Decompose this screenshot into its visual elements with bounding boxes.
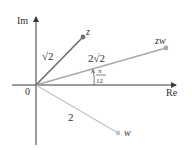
modulus-w-label: 2 [68, 111, 74, 123]
point-z [81, 35, 86, 40]
point-z-label: z [85, 26, 90, 37]
real-axis-label: Re [166, 87, 178, 98]
origin-label: 0 [25, 86, 30, 97]
modulus-zw-label: 2√2 [88, 52, 105, 64]
point-zw [164, 46, 169, 51]
vector-w [36, 85, 118, 133]
modulus-z-label: √2 [42, 50, 54, 62]
angle-numerator: π [98, 67, 102, 75]
point-zw-label: zw [154, 35, 166, 46]
imag-axis-label: Im [17, 15, 28, 26]
point-w [116, 131, 121, 136]
point-w-label: w [124, 127, 131, 138]
angle-denominator: 12 [96, 77, 104, 85]
complex-plane-diagram: Im Re 0 z zw w √2 2√2 2 π 12 [0, 0, 192, 150]
